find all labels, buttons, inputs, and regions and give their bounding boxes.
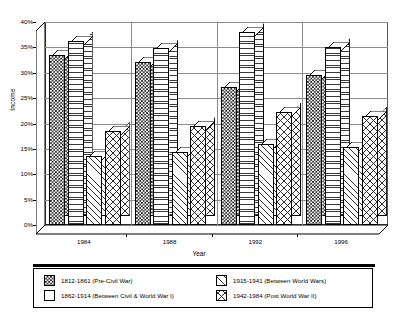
y-tick-label: 0% (3, 222, 33, 228)
legend-top-rule (33, 264, 375, 267)
y-tick-mark (33, 225, 36, 226)
bar-front-face (49, 55, 65, 225)
category-separator (302, 22, 303, 225)
y-tick-mark (33, 174, 36, 175)
bar (190, 117, 215, 225)
bar-front-face (86, 156, 102, 225)
bar-front-face (325, 47, 341, 225)
y-tick-label: 5% (3, 197, 33, 203)
category-separator (217, 22, 218, 225)
bar-front-face (276, 112, 292, 225)
y-tick-label: 20% (3, 121, 33, 127)
legend-label: 1862-1914 (Between Civil & World War I) (61, 292, 174, 300)
chart-screenshot: Income 0%5%10%15%20%25%30%35%40% 1984198… (0, 0, 398, 316)
y-tick-label: 40% (3, 19, 33, 25)
x-tick-label: 1984 (64, 238, 104, 245)
bar-top-face (276, 103, 301, 112)
legend-swatch-icon (216, 290, 227, 301)
legend-item: 1862-1914 (Between Civil & World War I) (44, 290, 174, 301)
bar-top-face (190, 117, 215, 126)
legend-label: 1915-1941 (Between World Wars) (233, 277, 326, 285)
bar-front-face (172, 152, 188, 225)
y-tick-mark (33, 47, 36, 48)
bar-side-face (121, 122, 130, 216)
bar-side-face (206, 117, 215, 216)
bar-chart: Income 0%5%10%15%20%25%30%35%40% 1984198… (0, 0, 398, 262)
y-axis-ticks: 0%5%10%15%20%25%30%35%40% (0, 0, 33, 262)
bar-side-face (378, 107, 387, 216)
bar-front-face (153, 48, 169, 225)
bar-side-face (292, 103, 301, 216)
bar-front-face (68, 41, 84, 225)
x-tick-label: 1988 (150, 238, 190, 245)
bar-front-face (306, 75, 322, 225)
x-tick-label: 1996 (321, 238, 361, 245)
legend-swatch-icon (44, 275, 55, 286)
plot-left-wall (36, 22, 46, 234)
y-tick-label: 15% (3, 146, 33, 152)
x-tick-mark (126, 234, 127, 237)
y-tick-mark (33, 149, 36, 150)
bar-front-face (190, 126, 206, 225)
legend-label: 1812-1861 (Pre-Civil War) (61, 277, 133, 285)
legend-item: 1942-1984 (Post World War II) (216, 290, 317, 301)
bar-front-face (135, 62, 151, 225)
legend-item: 1915-1941 (Between World Wars) (216, 275, 326, 286)
bar (276, 103, 301, 225)
legend-swatch-icon (44, 290, 55, 301)
bar-top-face (153, 39, 178, 48)
bar-top-face (325, 38, 350, 47)
bar (362, 107, 387, 225)
x-tick-label: 1992 (235, 238, 275, 245)
y-tick-mark (33, 200, 36, 201)
y-tick-label: 25% (3, 95, 33, 101)
x-tick-mark (212, 234, 213, 237)
category-separator (131, 22, 132, 225)
legend-label: 1942-1984 (Post World War II) (233, 292, 317, 300)
bar-front-face (239, 32, 255, 225)
chart-legend: 1812-1861 (Pre-Civil War)1862-1914 (Betw… (33, 268, 373, 308)
bar-top-face (239, 23, 264, 32)
bar (105, 122, 130, 225)
y-tick-mark (33, 73, 36, 74)
legend-item: 1812-1861 (Pre-Civil War) (44, 275, 133, 286)
y-tick-mark (33, 22, 36, 23)
y-tick-label: 10% (3, 171, 33, 177)
bar-top-face (362, 107, 387, 116)
y-tick-mark (33, 124, 36, 125)
bar-front-face (343, 147, 359, 225)
bar-top-face (105, 122, 130, 131)
legend-swatch-icon (216, 275, 227, 286)
y-tick-mark (33, 98, 36, 99)
bar-front-face (362, 116, 378, 225)
x-axis-label: Year (0, 250, 398, 257)
bar-front-face (221, 87, 237, 225)
y-tick-label: 35% (3, 44, 33, 50)
bar-front-face (258, 144, 274, 225)
x-tick-mark (297, 234, 298, 237)
bar-front-face (105, 131, 121, 225)
plot-frame (36, 22, 388, 234)
bar-top-face (68, 32, 93, 41)
y-tick-label: 30% (3, 70, 33, 76)
